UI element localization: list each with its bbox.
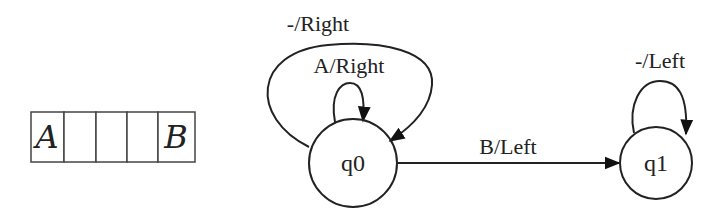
transition-q0-inner-loop	[334, 83, 364, 122]
state-q1: q1	[620, 127, 692, 199]
tape-cell-symbol: B	[163, 118, 188, 156]
turing-machine-diagram: A B -/Right A/Right q0 B/Left -/Left q1	[0, 0, 726, 219]
tape-cell	[127, 112, 158, 162]
state-label: q1	[644, 150, 668, 176]
transition-label-q0-inner: A/Right	[314, 53, 385, 78]
transition-label-q1-loop: -/Left	[635, 48, 685, 73]
state-q0: q0	[309, 119, 397, 207]
transition-label-q0-to-q1: B/Left	[479, 134, 536, 159]
state-label: q0	[341, 150, 365, 176]
tape: A B	[31, 112, 195, 162]
tape-cell	[96, 112, 127, 162]
transition-label-q0-outer: -/Right	[287, 11, 349, 36]
transition-q1-loop	[632, 81, 686, 134]
tape-cell	[64, 112, 96, 162]
tape-cell-symbol: A	[32, 118, 58, 156]
